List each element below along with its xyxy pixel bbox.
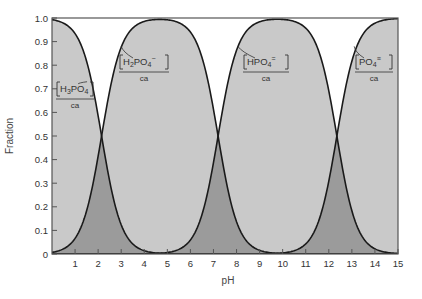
x-tick-label: 13: [347, 258, 358, 269]
species-formula: HPO4=: [247, 55, 276, 68]
y-tick-label: 0.5: [35, 131, 48, 142]
y-tick-label: 0.9: [35, 36, 48, 47]
y-tick-label: 0.3: [35, 178, 48, 189]
plot-area: [52, 19, 398, 254]
x-tick-label: 14: [370, 258, 381, 269]
x-tick-label: 6: [188, 258, 193, 269]
x-tick-label: 10: [277, 258, 288, 269]
y-tick-label: 0.6: [35, 107, 48, 118]
y-tick-label: 0.7: [35, 83, 48, 94]
x-tick-label: 4: [142, 258, 147, 269]
x-tick-label: 11: [301, 258, 311, 269]
y-axis-title: Fraction: [4, 118, 15, 154]
x-tick-label: 7: [211, 258, 216, 269]
x-tick-label: 3: [119, 258, 124, 269]
x-tick-label: 1: [72, 258, 77, 269]
x-tick-label: 12: [324, 258, 335, 269]
phosphate-speciation-chart: 00.10.20.30.40.50.60.70.80.91.0 12345678…: [0, 0, 422, 299]
ca-denominator: ca: [140, 74, 149, 83]
x-tick-label: 9: [257, 258, 262, 269]
species-formula: H2PO4−: [123, 55, 156, 68]
y-tick-label: 0.4: [35, 154, 48, 165]
x-axis-title: pH: [222, 275, 235, 286]
x-tick-label: 5: [165, 258, 170, 269]
y-tick-label: 0.2: [35, 201, 48, 212]
y-tick-label: 1.0: [35, 13, 48, 24]
ca-denominator: ca: [370, 74, 379, 83]
y-tick-label: 0: [43, 249, 48, 260]
species-formula: H3PO4: [60, 83, 89, 95]
x-tick-label: 15: [393, 258, 404, 269]
x-tick-label: 8: [234, 258, 239, 269]
y-tick-label: 0.1: [35, 225, 48, 236]
ca-denominator: ca: [262, 74, 271, 83]
x-tick-label: 2: [95, 258, 100, 269]
y-tick-label: 0.8: [35, 60, 48, 71]
ca-denominator: ca: [71, 101, 80, 110]
